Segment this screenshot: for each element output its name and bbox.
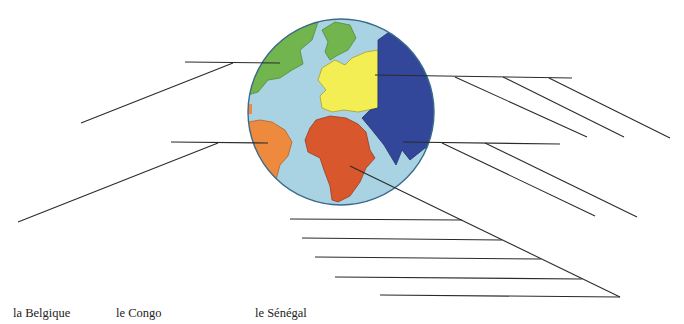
- globe: [248, 18, 440, 205]
- word-congo[interactable]: le Congo: [116, 306, 161, 321]
- word-senegal[interactable]: le Sénégal: [255, 306, 307, 321]
- answer-line-europe-3[interactable]: [549, 78, 670, 138]
- answer-line-africa-3[interactable]: [315, 257, 541, 259]
- answer-line-africa-4[interactable]: [335, 277, 582, 279]
- answer-line-africa-1[interactable]: [290, 219, 462, 220]
- answer-line-south-america[interactable]: [18, 143, 218, 222]
- answer-line-north-america[interactable]: [81, 63, 233, 123]
- globe-diagram: [0, 0, 684, 324]
- answer-line-africa-5[interactable]: [380, 295, 620, 297]
- answer-line-africa-2[interactable]: [302, 238, 502, 240]
- word-belgique[interactable]: la Belgique: [13, 306, 70, 321]
- answer-line-asia-1[interactable]: [442, 143, 595, 216]
- answer-line-asia-2[interactable]: [485, 143, 637, 217]
